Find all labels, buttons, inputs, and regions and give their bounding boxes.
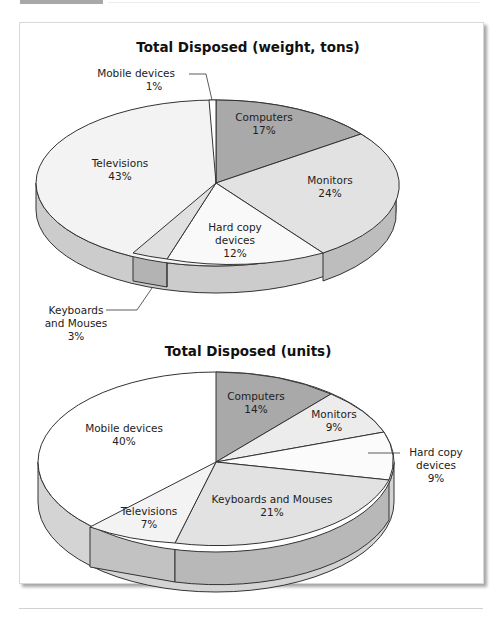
- chart-title-weight: Total Disposed (weight, tons): [136, 39, 359, 55]
- label-computers-pct: 17%: [252, 124, 275, 136]
- label-televisions-name: Televisions: [91, 157, 149, 169]
- label-hardcopy-name1: Hard copy: [208, 221, 262, 233]
- label-hardcopy-pct: 12%: [223, 247, 246, 259]
- label-monitors-name: Monitors: [307, 174, 352, 186]
- label-mobile-pct: 1%: [146, 80, 163, 92]
- label-mobile-name: Mobile devices: [85, 422, 163, 434]
- label-monitors-name: Monitors: [311, 408, 356, 420]
- label-computers-pct: 14%: [244, 403, 267, 415]
- charts-canvas: Total Disposed (weight, tons) Mobile dev…: [0, 0, 503, 632]
- label-computers-name: Computers: [227, 390, 285, 402]
- label-keyboards-pct: 21%: [260, 506, 283, 518]
- pie-chart-weight: Total Disposed (weight, tons) Mobile dev…: [36, 39, 399, 342]
- label-keyboards-name: Keyboards and Mouses: [212, 493, 333, 505]
- label-hardcopy-name2: devices: [416, 459, 456, 471]
- label-hardcopy-pct: 9%: [428, 472, 445, 484]
- chart-title-units: Total Disposed (units): [165, 343, 332, 359]
- label-computers-name: Computers: [235, 111, 293, 123]
- label-keyboards-pct: 3%: [68, 330, 85, 342]
- label-monitors-pct: 24%: [318, 187, 341, 199]
- label-televisions-name: Televisions: [120, 505, 178, 517]
- label-hardcopy-name2: devices: [215, 234, 255, 246]
- label-keyboards-name2: and Mouses: [45, 317, 108, 329]
- label-keyboards-name1: Keyboards: [49, 304, 104, 316]
- leader-line-keyboards: [106, 288, 152, 310]
- label-mobile-name: Mobile devices: [97, 67, 175, 79]
- pie-chart-units: Total Disposed (units) Computers 14% Mon…: [38, 343, 463, 592]
- leader-line-mobile: [189, 74, 212, 100]
- label-televisions-pct: 43%: [108, 170, 131, 182]
- label-hardcopy-name1: Hard copy: [409, 446, 463, 458]
- label-monitors-pct: 9%: [326, 421, 343, 433]
- label-televisions-pct: 7%: [141, 518, 158, 530]
- label-mobile-pct: 40%: [112, 435, 135, 447]
